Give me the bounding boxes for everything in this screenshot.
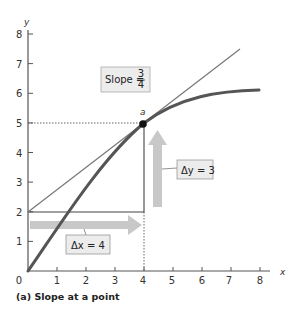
x-axis-label: x: [279, 267, 286, 277]
svg-text:5: 5: [16, 118, 22, 129]
svg-text:0: 0: [16, 275, 22, 286]
svg-text:7: 7: [226, 275, 232, 286]
svg-text:3: 3: [138, 68, 144, 79]
svg-text:8: 8: [16, 29, 22, 40]
slope-box: Slope = 3 4: [101, 67, 150, 92]
svg-text:8: 8: [257, 275, 263, 286]
svg-text:3: 3: [112, 275, 118, 286]
svg-text:Δy = 3: Δy = 3: [181, 165, 215, 176]
slope-chart: 1 2 3 4 5 6 7 8 0 1 2 3 4 5 6 7 8 y x a: [0, 0, 306, 309]
figure-caption: (a) Slope at a point: [16, 291, 119, 302]
svg-text:3: 3: [16, 177, 22, 188]
svg-text:4: 4: [138, 79, 144, 90]
y-axis-label: y: [23, 17, 30, 27]
svg-text:2: 2: [83, 275, 89, 286]
svg-text:6: 6: [16, 88, 22, 99]
svg-text:2: 2: [16, 207, 22, 218]
delta-x-connector: [84, 229, 86, 235]
x-tick-labels: 0 1 2 3 4 5 6 7 8: [16, 275, 263, 286]
svg-text:7: 7: [16, 59, 22, 70]
point-a-label: a: [140, 107, 146, 117]
svg-text:Δx = 4: Δx = 4: [71, 240, 105, 251]
delta-y-connector: [162, 168, 177, 169]
svg-text:1: 1: [16, 236, 22, 247]
svg-text:1: 1: [54, 275, 60, 286]
y-tick-labels: 1 2 3 4 5 6 7 8: [16, 29, 22, 247]
svg-text:5: 5: [169, 275, 175, 286]
point-a: [139, 120, 147, 128]
svg-text:4: 4: [140, 275, 146, 286]
delta-y-box: Δy = 3: [177, 160, 215, 179]
svg-text:6: 6: [199, 275, 205, 286]
svg-text:4: 4: [16, 148, 22, 159]
delta-x-arrow: [30, 215, 142, 235]
delta-x-box: Δx = 4: [66, 235, 110, 254]
